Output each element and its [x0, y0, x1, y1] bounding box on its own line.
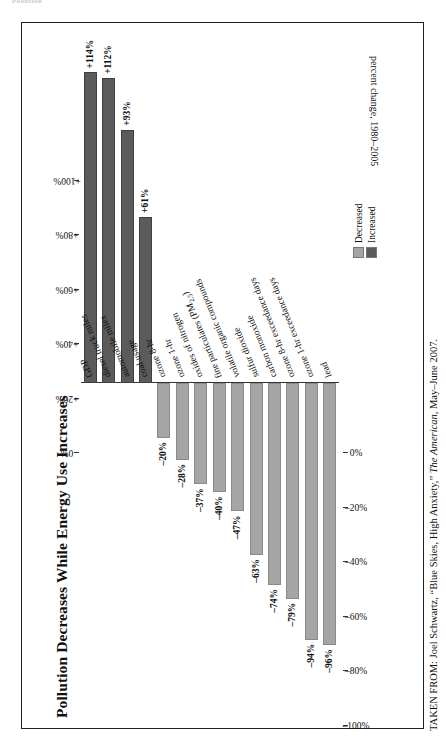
bar-value-label: –94%	[304, 643, 317, 667]
plot-area: +114%GDP+112%diesel truck miles+93%autom…	[81, 56, 339, 656]
bar-decreased	[231, 383, 244, 511]
bar-decreased	[304, 383, 317, 639]
bar-value-label: –47%	[231, 515, 244, 539]
axis-tick-label: –100%	[342, 721, 369, 731]
axis-tick-label: –20%	[344, 502, 366, 512]
bar-row: –94%ozone 1-hr exceedance days	[304, 56, 317, 656]
bar-value-label: –37%	[194, 488, 207, 512]
axis-tick-label: +80%	[55, 230, 78, 240]
axis-tick-label: +20%	[55, 393, 78, 403]
figure-frame: Pollution Decreases While Energy Use Inc…	[21, 22, 424, 729]
legend-swatch-increased	[366, 247, 377, 258]
axis-positive: +100%+80%+60%+40%+20%0%	[53, 126, 79, 726]
category-label: lead	[317, 360, 335, 380]
running-head: Pollution	[12, 0, 132, 7]
legend-swatch-decreased	[353, 247, 364, 258]
bar-value-label: +93%	[120, 101, 133, 125]
bar-value-label: –63%	[249, 559, 262, 583]
axis-tick-label: 0%	[349, 448, 362, 458]
bar-decreased	[175, 383, 188, 459]
rotated-chart-stage: Pollution Decreases While Energy Use Inc…	[47, 26, 399, 726]
source-suffix: , May–June 2007.	[428, 339, 439, 414]
chart-legend: Decreased Increased	[353, 203, 379, 258]
bar-value-label: –74%	[268, 589, 281, 613]
bar-decreased	[249, 383, 262, 555]
bar-decreased	[157, 383, 170, 438]
axis-tick-label: –80%	[344, 666, 366, 676]
legend-item-decreased: Decreased	[353, 203, 364, 258]
zero-baseline	[81, 382, 339, 383]
legend-item-increased: Increased	[366, 203, 377, 258]
bar-value-label: –79%	[286, 602, 299, 626]
bar-value-label: +114%	[83, 39, 96, 68]
bar-value-label: –96%	[323, 649, 336, 673]
bar-value-label: –28%	[175, 463, 188, 487]
axis-tick	[343, 452, 348, 453]
source-publication: The American	[428, 414, 439, 473]
axis-tick-label: +60%	[55, 284, 78, 294]
bar-decreased	[286, 383, 299, 598]
bar-value-label: +112%	[102, 45, 115, 74]
bar-value-label: –20%	[157, 441, 170, 465]
axis-tick-label: –40%	[344, 557, 366, 567]
bar-value-label: –40%	[212, 496, 225, 520]
source-note: TAKEN FROM: Joel Schwartz, “Blue Skies, …	[428, 31, 439, 731]
bar-value-label: +61%	[139, 188, 152, 212]
bar-decreased	[323, 383, 336, 645]
axis-tick	[74, 452, 79, 453]
legend-label-increased: Increased	[366, 206, 376, 242]
bar-decreased	[268, 383, 281, 585]
legend-label-decreased: Decreased	[353, 203, 363, 243]
bar-row: –96%lead	[323, 56, 336, 656]
axis-tick-label: +100%	[53, 175, 81, 185]
axis-tick-label: 0%	[60, 448, 73, 458]
axis-tick-label: –60%	[344, 611, 366, 621]
source-note-wrapper: TAKEN FROM: Joel Schwartz, “Blue Skies, …	[428, 731, 440, 751]
bar-decreased	[212, 383, 225, 492]
bar-decreased	[194, 383, 207, 484]
axis-tick-label: +40%	[55, 339, 78, 349]
axis-caption: percent change, 1980–2005	[369, 56, 380, 656]
source-prefix: TAKEN FROM: Joel Schwartz, “Blue Skies, …	[428, 473, 439, 731]
